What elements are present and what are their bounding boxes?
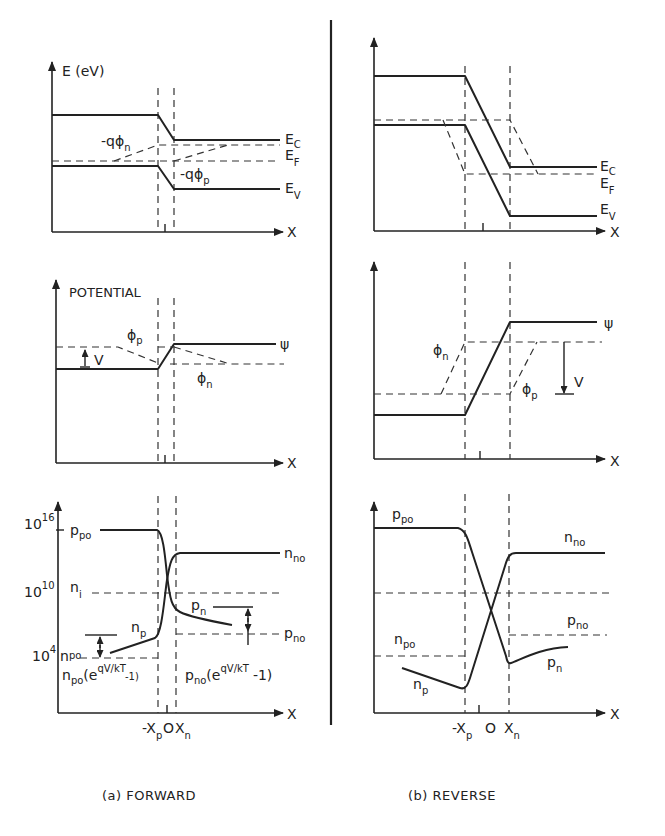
np-label: np xyxy=(413,676,428,696)
conduction-band-edge xyxy=(374,76,597,167)
forward-band-diagram: E (eV) X -qϕn -qϕp EC EF EV xyxy=(52,62,301,240)
pn-excess-expression: pno(eqV/kT-1) xyxy=(185,663,272,686)
valence-band-edge xyxy=(52,166,280,189)
tick-1e10: 1010 xyxy=(24,580,55,600)
x-axis-label: X xyxy=(287,706,297,722)
x-axis-label: X xyxy=(287,455,297,471)
y-axis-label: POTENTIAL xyxy=(69,285,142,300)
tick-1e16: 1016 xyxy=(24,512,55,532)
quasi-fermi-p xyxy=(374,120,538,174)
np-label: np xyxy=(131,619,146,639)
reverse-carrier-diagram: X ppo nno pno npo pn np -Xp O Xn xyxy=(374,494,620,741)
v-label: V xyxy=(94,352,104,368)
psi-label: ψ xyxy=(280,336,289,352)
x-axis-label: X xyxy=(610,224,620,240)
npo-label: npo xyxy=(60,648,81,664)
ef-label: EF xyxy=(285,147,300,168)
np-excess-expression: npo(eqV/kT-1) xyxy=(62,663,139,686)
x-tick-neg-xp: -Xp xyxy=(452,720,472,741)
reverse-band-diagram: X EC EF EV xyxy=(374,38,620,240)
forward-carrier-diagram: X 1016 1010 104 ppo nno ni pn np pno npo… xyxy=(24,496,305,741)
x-tick-xn: Xn xyxy=(175,720,191,741)
ni-label: ni xyxy=(70,579,82,600)
ef-label: EF xyxy=(600,175,615,196)
ev-label: EV xyxy=(600,201,616,222)
x-tick-zero: O xyxy=(163,720,174,736)
valence-band-edge xyxy=(374,125,597,216)
x-tick-zero: O xyxy=(485,720,496,736)
pn-label: pn xyxy=(191,597,206,617)
conduction-band-edge xyxy=(52,115,280,140)
phi-p-curve xyxy=(56,347,158,363)
pn-junction-figure: E (eV) X -qϕn -qϕp EC EF EV X EC EF EV P… xyxy=(0,0,665,836)
caption-forward: (a) FORWARD xyxy=(102,788,196,803)
ppo-label: ppo xyxy=(392,506,413,525)
reverse-potential-diagram: X V ϕn ϕp ψ xyxy=(374,262,620,469)
x-axis-label: X xyxy=(610,706,620,722)
npo-label: npo xyxy=(394,631,415,650)
nno-label: nno xyxy=(284,545,305,564)
phi-p-curve xyxy=(374,342,537,394)
quasi-fermi-n xyxy=(114,145,280,161)
pn-label: pn xyxy=(547,654,562,674)
x-axis-label: X xyxy=(287,224,297,240)
x-tick-xn: Xn xyxy=(504,720,520,741)
quasi-fermi-p-slope xyxy=(174,145,228,161)
v-label: V xyxy=(574,374,584,390)
neg-q-phi-p-label: -qϕp xyxy=(180,166,210,186)
psi-curve xyxy=(56,344,276,369)
phi-n-curve xyxy=(174,347,284,364)
ev-label: EV xyxy=(285,180,301,201)
phi-p-label: ϕp xyxy=(127,327,143,346)
hole-concentration-curve xyxy=(100,530,232,625)
psi-label: ψ xyxy=(604,315,613,331)
nno-label: nno xyxy=(564,529,585,548)
pno-label: pno xyxy=(567,612,588,631)
forward-potential-diagram: POTENTIAL X V ϕp ϕn ψ xyxy=(56,280,297,471)
x-tick-neg-xp: -Xp xyxy=(142,720,162,741)
pno-label: pno xyxy=(284,625,305,644)
tick-1e4: 104 xyxy=(32,644,56,664)
caption-reverse: (b) REVERSE xyxy=(408,788,496,803)
phi-n-label: ϕn xyxy=(433,342,449,362)
neg-q-phi-n-label: -qϕn xyxy=(101,133,131,153)
phi-p-label: ϕp xyxy=(522,381,538,401)
x-axis-label: X xyxy=(610,453,620,469)
y-axis-label: E (eV) xyxy=(62,63,104,79)
phi-n-label: ϕn xyxy=(197,370,213,390)
ppo-label: ppo xyxy=(70,522,91,541)
